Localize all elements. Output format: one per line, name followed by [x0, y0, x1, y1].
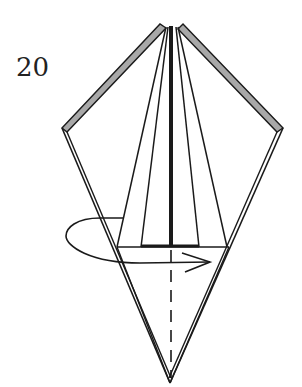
right-flap-edge	[178, 24, 283, 132]
turn-over-arrow	[66, 218, 210, 263]
left-flap-edge	[62, 24, 166, 132]
origami-figure	[0, 0, 302, 387]
origami-diagram: 20	[0, 0, 302, 387]
